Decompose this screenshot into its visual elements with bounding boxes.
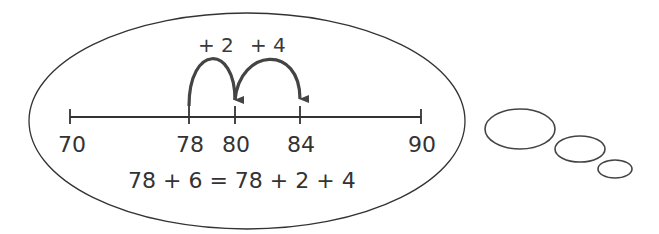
diagram-canvas: 70 78 80 84 90 + 2 + 4 78 + 6 = 78 + 2 +…: [0, 0, 659, 234]
tick-label-70: 70: [58, 132, 86, 157]
tick-label-84: 84: [287, 132, 315, 157]
tick-label-80: 80: [222, 132, 250, 157]
tick-label-78: 78: [176, 132, 204, 157]
jump-arc-plus-2: [189, 59, 235, 106]
number-line: [70, 106, 421, 124]
jump-label-plus-2: + 2: [198, 33, 234, 57]
thought-bubble-large: [485, 109, 555, 149]
jump-label-plus-4: + 4: [250, 33, 286, 57]
thought-bubble-medium: [555, 136, 605, 162]
thought-bubble-small: [598, 160, 632, 178]
jump-arc-plus-4: [235, 59, 300, 100]
equation: 78 + 6 = 78 + 2 + 4: [128, 168, 356, 193]
tick-label-90: 90: [408, 132, 436, 157]
thought-ellipse: [29, 13, 465, 229]
